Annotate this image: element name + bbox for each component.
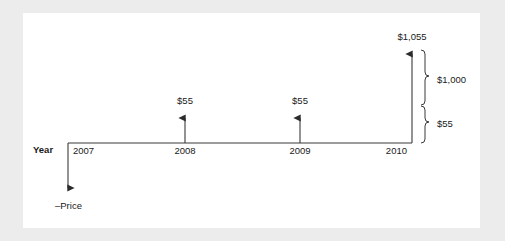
year-label-2008: 2008 (174, 145, 195, 156)
year-label-2010: 2010 (386, 145, 407, 156)
cash-flow-label-2009: $55 (292, 95, 308, 106)
timeline-diagram: –Price $55 $55 $1,055 $1,000 $55 Year 20… (0, 0, 505, 241)
figure-root: –Price $55 $55 $1,055 $1,000 $55 Year 20… (0, 0, 505, 241)
price-label: –Price (55, 200, 82, 211)
axis-name-label: Year (33, 144, 53, 155)
bracket-label-principal: $1,000 (437, 74, 466, 85)
brace-principal (421, 50, 429, 105)
year-label-2007: 2007 (73, 145, 94, 156)
bracket-label-coupon: $55 (437, 118, 453, 129)
cash-flow-label-2010: $1,055 (397, 31, 426, 42)
brace-coupon (421, 106, 429, 143)
cash-flow-label-2008: $55 (177, 95, 193, 106)
year-label-2009: 2009 (289, 145, 310, 156)
